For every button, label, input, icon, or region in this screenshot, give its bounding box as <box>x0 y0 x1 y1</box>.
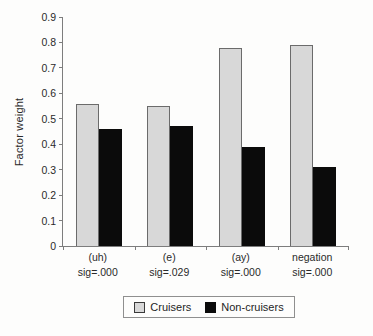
y-tick-label: 0 <box>50 240 56 252</box>
bar-non-cruisers <box>313 167 336 246</box>
x-tick-mark <box>348 246 349 250</box>
y-axis-title-text: Factor weight <box>13 97 25 166</box>
legend-box: CruisersNon-cruisers <box>123 296 294 318</box>
bar-group-ay <box>206 17 278 246</box>
bar-non-cruisers <box>99 129 122 246</box>
x-axis-category-labels: (uh)sig=.000(e)sig=.029(ay)sig=.000negat… <box>62 250 348 280</box>
x-category-sig: sig=.029 <box>134 265 206 280</box>
legend-swatch-icon <box>134 302 145 313</box>
bar-groups <box>63 17 349 246</box>
legend-swatch-icon <box>205 302 216 313</box>
y-tick-label: 0.1 <box>41 215 56 227</box>
x-category-name: (uh) <box>62 250 134 265</box>
x-category-label: (uh)sig=.000 <box>62 250 134 280</box>
x-category-sig: sig=.000 <box>205 265 277 280</box>
x-category-label: negationsig=.000 <box>277 250 349 280</box>
y-tick-label: 0.3 <box>41 164 56 176</box>
plot-area: 00.10.20.30.40.50.60.70.80.9 <box>62 17 349 247</box>
y-tick-label: 0.8 <box>41 36 56 48</box>
x-category-label: (e)sig=.029 <box>134 250 206 280</box>
y-tick-label: 0.7 <box>41 62 56 74</box>
legend-label: Non-cruisers <box>221 301 283 313</box>
y-axis-title: Factor weight <box>12 17 26 246</box>
legend-item-cruisers: Cruisers <box>134 301 191 313</box>
x-category-name: (e) <box>134 250 206 265</box>
bar-non-cruisers <box>170 126 193 246</box>
x-category-name: negation <box>277 250 349 265</box>
x-category-name: (ay) <box>205 250 277 265</box>
bar-cruisers <box>219 48 242 246</box>
y-tick-label: 0.4 <box>41 138 56 150</box>
legend-item-non-cruisers: Non-cruisers <box>205 301 283 313</box>
bar-cruisers <box>290 45 313 246</box>
bar-group-negation <box>278 17 350 246</box>
bar-cruisers <box>76 104 99 246</box>
y-tick-label: 0.9 <box>41 11 56 23</box>
x-category-sig: sig=.000 <box>277 265 349 280</box>
x-category-label: (ay)sig=.000 <box>205 250 277 280</box>
x-category-sig: sig=.000 <box>62 265 134 280</box>
y-tick-label: 0.6 <box>41 87 56 99</box>
factor-weight-bar-chart: Factor weight 00.10.20.30.40.50.60.70.80… <box>0 0 373 336</box>
y-tick-label: 0.2 <box>41 189 56 201</box>
bar-cruisers <box>147 106 170 246</box>
bar-non-cruisers <box>242 147 265 246</box>
legend-label: Cruisers <box>150 301 191 313</box>
bar-group-uh <box>63 17 135 246</box>
legend: CruisersNon-cruisers <box>0 296 373 318</box>
bar-group-e <box>135 17 207 246</box>
y-tick-label: 0.5 <box>41 113 56 125</box>
